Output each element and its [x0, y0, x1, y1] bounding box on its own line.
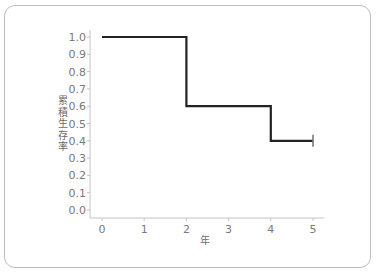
- y-tick-label: 0.2: [69, 169, 87, 182]
- x-tick-label: 2: [183, 223, 190, 236]
- x-tick-label: 0: [99, 223, 106, 236]
- y-ticks: 0.00.10.20.30.40.50.60.70.80.91.0: [69, 31, 91, 217]
- y-tick-label: 0.3: [69, 152, 87, 165]
- y-tick-label: 0.9: [69, 48, 87, 61]
- y-tick-label: 0.4: [69, 135, 87, 148]
- x-tick-label: 1: [141, 223, 148, 236]
- x-tick-label: 5: [310, 223, 317, 236]
- x-tick-label: 3: [225, 223, 232, 236]
- y-tick-label: 0.6: [69, 100, 87, 113]
- y-tick-label: 0.0: [69, 204, 87, 217]
- x-axis-title: 年: [200, 234, 210, 246]
- y-tick-label: 0.5: [69, 118, 87, 131]
- y-tick-label: 0.7: [69, 83, 87, 96]
- x-ticks: 012345: [99, 218, 317, 236]
- y-tick-label: 1.0: [69, 31, 87, 44]
- y-axis-title: 累積生存率: [58, 95, 68, 152]
- y-tick-label: 0.8: [69, 66, 87, 79]
- y-tick-label: 0.1: [69, 187, 87, 200]
- survival-curve: [102, 37, 313, 141]
- x-tick-label: 4: [267, 223, 274, 236]
- survival-chart: 0.00.10.20.30.40.50.60.70.80.91.0 012345…: [0, 0, 376, 277]
